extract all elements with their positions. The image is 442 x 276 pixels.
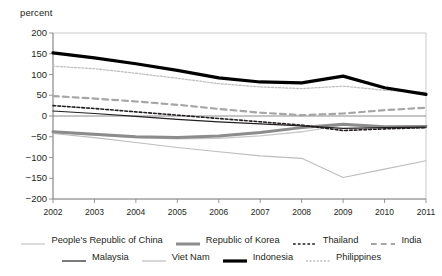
legend-line-icon-ind — [370, 235, 396, 245]
legend-line-icon-phl — [305, 252, 331, 262]
y-tick-label: −200 — [11, 194, 47, 204]
legend-item-prc[interactable]: People's Republic of China — [20, 235, 162, 245]
y-tick-label: −150 — [11, 173, 47, 183]
legend-label-idn: Indonesia — [253, 252, 293, 262]
legend-row-1: People's Republic of ChinaRepublic of Ko… — [0, 231, 442, 248]
legend-line-icon-prc — [20, 235, 46, 245]
legend-label-vnm: Viet Nam — [172, 252, 210, 262]
legend-swatch-phl — [305, 256, 331, 266]
legend-label-phl: Philippines — [336, 252, 381, 262]
legend-swatch-tha — [292, 239, 318, 249]
y-tick-label: −50 — [11, 132, 47, 142]
legend-label-ind: India — [401, 235, 421, 245]
y-tick-label: 150 — [11, 49, 47, 59]
legend-swatch-prc — [20, 239, 46, 249]
x-tick-label: 2003 — [74, 207, 114, 217]
legend-line-icon-kor — [175, 235, 201, 245]
x-tick-label: 2010 — [365, 207, 405, 217]
legend-item-kor[interactable]: Republic of Korea — [175, 235, 280, 245]
x-tick-label: 2004 — [116, 207, 156, 217]
legend-swatch-idn — [222, 256, 248, 266]
y-tick-label: 0 — [11, 111, 47, 121]
legend-row-2: MalaysiaViet NamIndonesiaPhilippines — [0, 248, 442, 265]
x-tick-label: 2008 — [282, 207, 322, 217]
legend-line-icon-mys — [61, 252, 87, 262]
x-tick-label: 2011 — [406, 207, 442, 217]
x-tick-label: 2006 — [199, 207, 239, 217]
chart-legend: People's Republic of ChinaRepublic of Ko… — [0, 231, 442, 265]
legend-line-icon-tha — [292, 235, 318, 245]
legend-item-phl[interactable]: Philippines — [305, 252, 381, 262]
y-tick-label: 50 — [11, 90, 47, 100]
y-tick-label: 200 — [11, 28, 47, 38]
legend-line-icon-idn — [222, 252, 248, 262]
series-line-vnm — [53, 133, 426, 177]
legend-label-mys: Malaysia — [92, 252, 129, 262]
legend-label-kor: Republic of Korea — [206, 235, 280, 245]
legend-swatch-kor — [175, 239, 201, 249]
x-tick-label: 2002 — [33, 207, 73, 217]
series-layer — [53, 53, 426, 178]
legend-item-tha[interactable]: Thailand — [292, 235, 359, 245]
y-tick-label: 100 — [11, 70, 47, 80]
legend-item-vnm[interactable]: Viet Nam — [141, 252, 210, 262]
chart-container: percent 200150100500−50−100−150−200 2002… — [0, 0, 442, 276]
y-tick-label: −100 — [11, 153, 47, 163]
legend-swatch-mys — [61, 256, 87, 266]
legend-item-ind[interactable]: India — [370, 235, 421, 245]
legend-swatch-vnm — [141, 256, 167, 266]
legend-line-icon-vnm — [141, 252, 167, 262]
series-line-kor — [53, 124, 426, 137]
legend-label-tha: Thailand — [323, 235, 359, 245]
legend-swatch-ind — [370, 239, 396, 249]
legend-label-prc: People's Republic of China — [51, 235, 162, 245]
x-tick-label: 2005 — [157, 207, 197, 217]
x-tick-label: 2009 — [323, 207, 363, 217]
legend-item-idn[interactable]: Indonesia — [222, 252, 293, 262]
legend-item-mys[interactable]: Malaysia — [61, 252, 129, 262]
x-tick-label: 2007 — [240, 207, 280, 217]
series-line-ind — [53, 96, 426, 115]
